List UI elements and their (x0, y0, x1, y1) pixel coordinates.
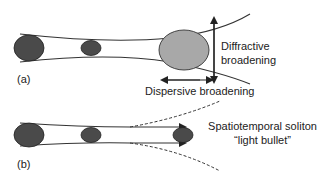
diffractive-label-line1: Diffractive (221, 40, 270, 52)
panel-b-label: (b) (17, 158, 30, 170)
panel-a-envelope (20, 14, 250, 84)
pulse-a-broadened (159, 30, 209, 70)
soliton-label-line1: Spatiotemporal soliton (205, 120, 320, 132)
diagram-canvas: (a) Diffractive broadening Dispersive br… (0, 0, 320, 178)
panel-a-label: (a) (17, 73, 30, 85)
pulse-a-initial (14, 35, 44, 61)
pulse-a-middle (81, 41, 101, 56)
pulse-b-soliton (173, 128, 193, 143)
pulse-b-initial (14, 123, 44, 147)
soliton-label-line2: “light bullet” (205, 134, 320, 146)
pulse-b-middle (81, 128, 101, 143)
diffractive-label-line2: broadening (221, 54, 276, 66)
dispersive-label: Dispersive broadening (145, 85, 254, 97)
